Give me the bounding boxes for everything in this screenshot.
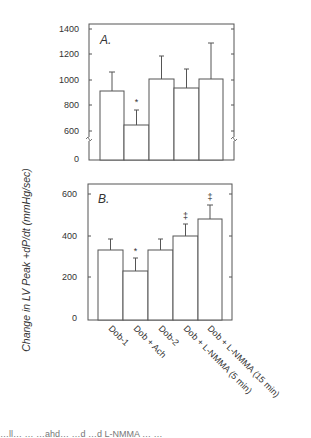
caption-fragment: …ll… … …ahd… …d …d L-NMMA … … [0, 430, 311, 438]
panel-a-tick-1400: 1400 [59, 24, 79, 34]
figure: Change in LV Peak +dP/dt (mmHg/sec) 1400… [0, 0, 311, 438]
panel-a-tick-600: 600 [64, 126, 79, 136]
panel-a-label: A. [99, 33, 111, 47]
panel-b-bar-dob-ach [123, 271, 148, 320]
panel-a-bar-dob-2 [149, 79, 174, 160]
panel-b-bar-lnmma-5 [173, 236, 198, 320]
panel-b: 600 400 200 0 B. * ‡ ‡ [62, 184, 232, 323]
panel-a-significance-star: * [135, 97, 139, 107]
panel-a-tick-1000: 1000 [59, 75, 79, 85]
panel-b-bar-lnmma-15 [198, 219, 222, 320]
panel-a-bar-lnmma-5 [174, 88, 199, 160]
panel-a-bar-dob-1 [100, 91, 124, 160]
panel-a-bar-dob-ach [124, 125, 149, 160]
panel-b-label: B. [98, 192, 109, 206]
x-label-dob-1: Dob-1 [107, 323, 131, 347]
panel-a-bar-lnmma-15 [199, 79, 223, 160]
panel-b-tick-200: 200 [62, 272, 77, 282]
panel-a-tick-800: 800 [64, 100, 79, 110]
panel-b-significance-star: * [134, 246, 138, 256]
panel-a: 1400 1200 1000 800 600 0 A. [59, 24, 237, 164]
panel-a-tick-1200: 1200 [59, 49, 79, 59]
panel-b-tick-400: 400 [62, 231, 77, 241]
panel-b-dagger-15min: ‡ [207, 192, 212, 202]
panel-b-bar-dob-2 [148, 250, 173, 320]
panel-b-dagger-5min: ‡ [183, 211, 188, 221]
panel-b-tick-600: 600 [62, 189, 77, 199]
panel-a-tick-0: 0 [74, 154, 79, 164]
panel-b-bar-dob-1 [98, 250, 123, 320]
panel-b-tick-0: 0 [72, 313, 77, 323]
y-axis-label: Change in LV Peak +dP/dt (mmHg/sec) [20, 168, 32, 352]
